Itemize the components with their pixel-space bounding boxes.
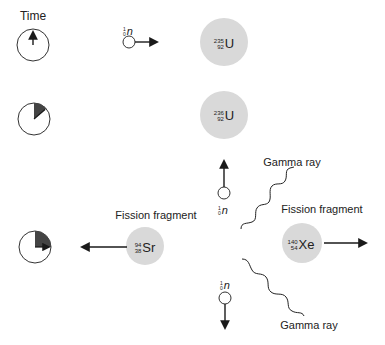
clock-mid-icon (18, 103, 50, 135)
fragment-xe-label: 14054Xe (288, 238, 315, 251)
element-symbol: Sr (142, 241, 155, 254)
incoming-neutron-icon (123, 36, 157, 48)
element-symbol: U (225, 109, 234, 122)
incoming-neutron-label: 10n (123, 26, 133, 37)
atomic-number: 0 (218, 210, 221, 215)
neutron-down-label: 10n (220, 280, 230, 291)
atomic-number: 0 (220, 285, 223, 290)
neutron-up-label: 10n (218, 205, 228, 216)
fission-fragment-xe-label: Fission fragment (281, 204, 362, 215)
fission-diagram: Time 10n 23592U 23692U Gamma ray 10n Fis… (0, 0, 385, 345)
nucleus-u236-label: 23692U (214, 109, 234, 122)
fission-fragment-sr-label: Fission fragment (115, 210, 196, 221)
gamma-ray-upper-icon (241, 167, 294, 229)
gamma-ray-upper-label: Gamma ray (263, 157, 320, 168)
element-symbol: n (222, 205, 228, 216)
neutron-down-icon (219, 292, 231, 328)
element-symbol: n (127, 26, 133, 37)
atomic-number: 38 (135, 247, 142, 253)
atomic-number: 92 (217, 115, 224, 121)
atomic-number: 54 (291, 244, 298, 250)
nucleus-u235-label: 23592U (214, 37, 234, 50)
neutron-up-icon (218, 161, 230, 199)
clock-end-icon (19, 231, 51, 263)
element-symbol: n (224, 280, 230, 291)
clock-start-icon (17, 29, 49, 61)
gamma-ray-lower-label: Gamma ray (280, 320, 337, 331)
atomic-number: 0 (123, 31, 126, 36)
element-symbol: Xe (299, 238, 315, 251)
time-label: Time (20, 10, 46, 22)
element-symbol: U (225, 37, 234, 50)
diagram-graphics (0, 0, 385, 345)
gamma-ray-lower-icon (242, 259, 304, 316)
fragment-sr-label: 9438Sr (135, 241, 156, 254)
atomic-number: 92 (217, 43, 224, 49)
